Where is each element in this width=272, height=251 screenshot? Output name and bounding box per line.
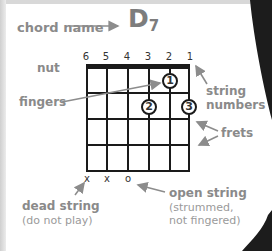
dead-string-note: (do not play) [22, 214, 93, 227]
nut-bar [86, 64, 190, 69]
finger-1-marker: 1 [165, 74, 175, 87]
open-string-note-1: (strummed, [169, 201, 234, 214]
finger-2-marker: 2 [144, 100, 154, 113]
nut-label: nut [37, 61, 60, 75]
string-numbers-label-1: string [206, 84, 246, 98]
mark-string-4: o [123, 173, 133, 184]
string-numbers-label-2: numbers [206, 98, 265, 112]
finger-3-marker: 3 [184, 100, 194, 113]
open-string-label: open string [169, 186, 247, 200]
frets-label: frets [221, 126, 253, 140]
fingers-label: fingers [19, 95, 66, 109]
mark-string-6: x [82, 173, 92, 184]
mark-string-5: x [102, 173, 112, 184]
open-string-note-2: not fingered) [169, 214, 240, 227]
dead-string-label: dead string [22, 199, 100, 213]
